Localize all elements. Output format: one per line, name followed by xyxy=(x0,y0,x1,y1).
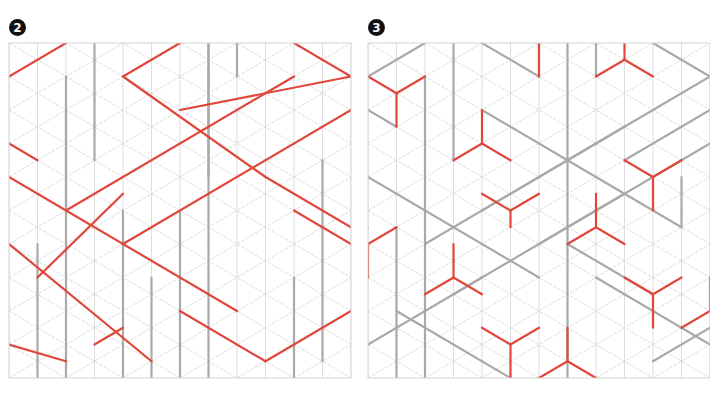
isometric-grid-diagram-3 xyxy=(0,0,710,393)
panel-3: 3 xyxy=(355,0,710,393)
